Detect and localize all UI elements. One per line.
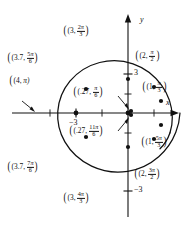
point-1-pi-3 (159, 99, 163, 103)
open-paren: ( (135, 169, 138, 178)
label-point-2-pi-2: ( (2, π 2 ) (135, 49, 160, 63)
r-value: (2, (139, 52, 149, 59)
theta-fraction: π 3 (156, 80, 163, 94)
y-axis-label: y (140, 16, 144, 24)
point-3-4pi-3 (126, 145, 130, 149)
label-point-37-5pi-6: ( (3.7, 5π 6 ) (7, 51, 39, 65)
close-paren: ) (35, 53, 38, 62)
open-paren: ( (74, 87, 77, 96)
close-paren: ) (86, 193, 89, 202)
point-1-5pi-3 (159, 123, 163, 127)
x-axis-label: x (166, 99, 170, 107)
close-paren: ) (157, 169, 160, 178)
theta-fraction: 7π 6 (26, 160, 34, 174)
open-paren: ( (143, 82, 146, 91)
r-value: (1, (145, 138, 155, 145)
theta-fraction: 11π 6 (88, 124, 99, 138)
close-paren: ) (86, 26, 89, 35)
point-3-2pi-3 (126, 77, 130, 81)
point-origin-cusp (126, 111, 131, 116)
label-point-027-11pi-6: ( (.27, 11π 6 ) (69, 124, 104, 138)
label-point-027-pi-6: ( (.27, π 6 ) (73, 85, 103, 99)
r-value: (3, (67, 27, 77, 34)
theta-fraction: 5π 6 (26, 51, 34, 65)
theta-fraction: 2π 3 (77, 24, 85, 38)
r-value: (3.7, (11, 163, 26, 170)
open-paren: ( (64, 193, 67, 202)
close-paren: ) (35, 162, 38, 171)
open-paren: ( (8, 53, 11, 62)
r-value: (3.7, (11, 54, 26, 61)
label-point-3-2pi-3: ( (3, 2π 3 ) (63, 24, 89, 38)
close-paren: ) (100, 87, 103, 96)
y-tick-label-3: 3 (134, 69, 138, 77)
close-paren: ) (100, 126, 103, 135)
theta-fraction: π 2 (149, 49, 156, 63)
r-value: (.27, (77, 88, 92, 95)
r-value: (.27, (73, 127, 88, 134)
open-paren: ( (136, 51, 139, 60)
polar-graph-figure: y x 3 −3 −3 ( (3, 2π 3 ) ( (2, π 2 ) (0, 0, 189, 226)
x-axis (12, 109, 179, 118)
theta-fraction: π 6 (92, 85, 99, 99)
r-value: (1, (146, 83, 156, 90)
close-paren: ) (163, 82, 166, 91)
y-tick-label-neg3: −3 (134, 186, 143, 194)
open-paren: ( (70, 126, 73, 135)
label-point-37-7pi-6: ( (3.7, 7π 6 ) (7, 160, 39, 174)
close-paren: ) (156, 51, 159, 60)
label-point-4-pi: ( (4, π) (9, 76, 29, 85)
point-4-pi (74, 111, 79, 116)
theta-fraction: 5π 3 (155, 135, 163, 149)
open-paren: ( (142, 137, 145, 146)
r-value: (4, (13, 77, 23, 84)
close-paren: ) (164, 137, 167, 146)
polar-plot-canvas (0, 0, 189, 226)
open-paren: ( (64, 26, 67, 35)
r-value: (3, (67, 194, 77, 201)
label-point-1-pi-3: ( (1, π 3 ) (142, 80, 167, 94)
theta-value: π) (23, 77, 30, 84)
open-paren: ( (10, 76, 13, 85)
label-point-1-5pi-3: ( (1, 5π 3 ) (141, 135, 167, 149)
label-point-2-3pi-2: ( (2, 3π 2 ) (134, 167, 160, 181)
label-point-3-4pi-3: ( (3, 4π 3 ) (63, 191, 89, 205)
theta-fraction: 3π 2 (148, 167, 156, 181)
theta-fraction: 4π 3 (77, 191, 85, 205)
r-value: (2, (138, 170, 148, 177)
open-paren: ( (8, 162, 11, 171)
